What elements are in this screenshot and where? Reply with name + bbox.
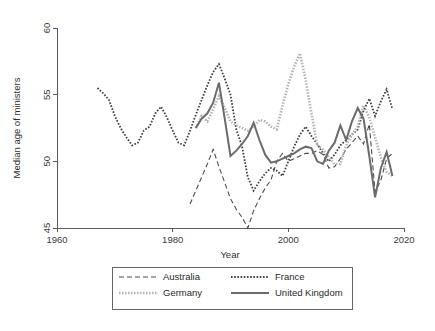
chart-legend: AustraliaFranceGermanyUnited Kingdom (112, 267, 352, 309)
series-line-united-kingdom (196, 83, 393, 198)
x-axis-title: Year (220, 249, 239, 260)
legend-label-australia: Australia (163, 271, 201, 282)
y-tick-label: 60 (41, 23, 52, 34)
series-line-france (97, 64, 392, 191)
legend-label-united-kingdom: United Kingdom (275, 287, 343, 298)
data-series-group (97, 53, 392, 228)
legend-label-germany: Germany (163, 287, 202, 298)
x-tick-label: 2000 (278, 234, 299, 245)
x-axis-ticks: 1960198020002020 (46, 228, 414, 245)
y-tick-label: 55 (41, 89, 52, 100)
x-tick-label: 1960 (46, 234, 67, 245)
chart-figure: 45505560 1960198020002020 Median age of … (0, 0, 435, 331)
y-axis-title: Median age of ministers (11, 77, 22, 178)
x-tick-label: 2020 (393, 234, 414, 245)
y-tick-label: 50 (41, 156, 52, 167)
y-axis-ticks: 45505560 (41, 23, 57, 234)
x-tick-label: 1980 (162, 234, 183, 245)
y-tick-label: 45 (41, 223, 52, 234)
legend-label-france: France (275, 271, 305, 282)
series-line-australia (190, 124, 392, 228)
median-age-line-chart: 45505560 1960198020002020 Median age of … (0, 0, 435, 331)
